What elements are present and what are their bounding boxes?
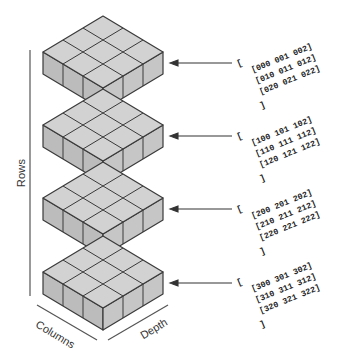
layer-slab-3 — [43, 236, 163, 330]
arrow-icon-layer-1 — [170, 133, 232, 139]
rows-axis-label: Rows — [15, 157, 29, 189]
arrow-icon-layer-3 — [170, 280, 232, 286]
arrow-icon-layer-2 — [170, 206, 232, 212]
layer-arrows — [170, 60, 232, 286]
arrow-icon-layer-0 — [170, 60, 232, 66]
3d-array-diagram: Rows Columns Depth [ [000 001 002] [010 … — [0, 0, 337, 353]
